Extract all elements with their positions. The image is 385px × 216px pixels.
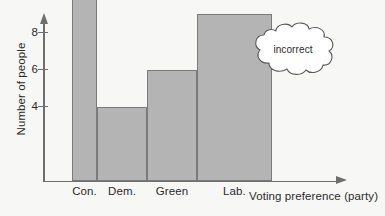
- x-tick-label: Con.: [72, 185, 97, 197]
- x-tick-label: Green: [147, 185, 197, 197]
- bar-chart-figure: 10864 Number of people Voting preference…: [0, 0, 385, 216]
- y-tick-label: 10: [16, 0, 38, 1]
- bar-green: [147, 70, 197, 181]
- y-axis-arrow-icon: [40, 13, 48, 24]
- y-tick-mark: [38, 69, 48, 70]
- y-tick-mark: [38, 106, 48, 107]
- x-tick-label: Lab.: [197, 185, 272, 197]
- incorrect-callout: incorrect: [246, 21, 340, 77]
- y-axis-line: [43, 22, 45, 182]
- bar-dem: [97, 107, 147, 181]
- x-tick-label: Dem.: [97, 185, 147, 197]
- bar-con: [72, 0, 97, 181]
- y-tick-mark: [38, 32, 48, 33]
- x-axis-arrow-icon: [336, 176, 347, 184]
- y-axis-title: Number of people: [15, 24, 27, 154]
- callout-text: incorrect: [246, 21, 340, 77]
